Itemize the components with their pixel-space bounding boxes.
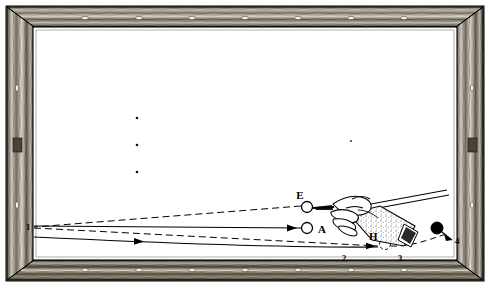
label-ball-E: E <box>296 189 303 201</box>
cushion-number-3: 3 <box>398 253 402 263</box>
ball-A <box>302 223 313 234</box>
cushion-number-2: 2 <box>342 253 346 263</box>
diagram-canvas: E A H 1 2 3 4 <box>0 0 490 287</box>
label-point-H: H <box>369 230 378 242</box>
ball-E <box>302 202 313 213</box>
ball-black <box>431 222 443 234</box>
billiard-diagram-figure: E A H 1 2 3 4 <box>0 0 490 287</box>
cushion-number-1: 1 <box>26 222 30 232</box>
label-ball-A: A <box>318 223 326 235</box>
